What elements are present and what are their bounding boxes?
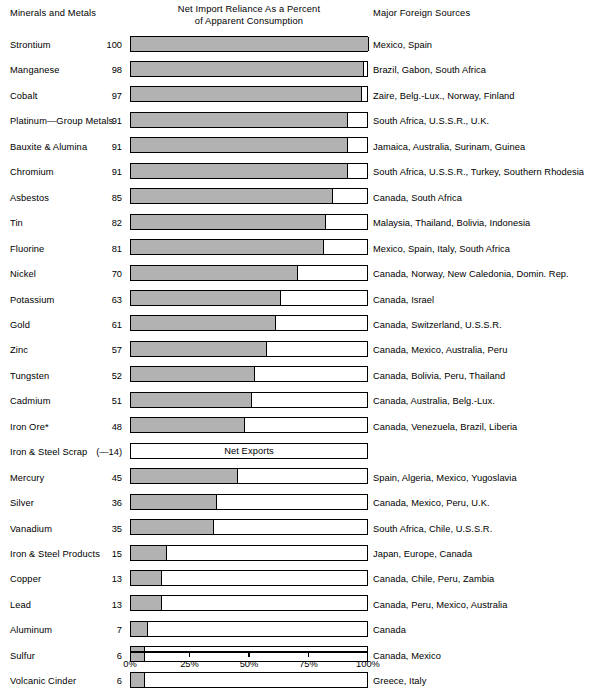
category-label: Tungsten: [10, 371, 49, 381]
column-header-sources: Major Foreign Sources: [373, 8, 470, 18]
bar-track: Net Exports: [130, 443, 368, 459]
chart-row: Iron & Steel Scrap(—14)Net Exports: [0, 440, 590, 465]
chart-row: Nickel70Canada, Norway, New Caledonia, D…: [0, 262, 590, 287]
column-header-minerals: Minerals and Metals: [10, 8, 96, 18]
foreign-sources-label: Canada, Switzerland, U.S.S.R.: [373, 320, 502, 330]
category-value: 45: [52, 473, 122, 483]
axis-tick: [367, 651, 368, 657]
bar-track: [130, 672, 368, 688]
foreign-sources-label: Canada, Chile, Peru, Zambia: [373, 574, 494, 584]
chart-row: Volcanic Cinder6Greece, Italy: [0, 669, 590, 692]
category-label: Cobalt: [10, 91, 37, 101]
category-value: 51: [52, 396, 122, 406]
foreign-sources-label: Mexico, Spain, Italy, South Africa: [373, 244, 510, 254]
bar-fill: [131, 673, 145, 687]
bar-fill: [131, 164, 348, 178]
bar-track: [130, 595, 368, 611]
bar-fill: [131, 240, 324, 254]
category-value: 61: [52, 320, 122, 330]
category-value: 70: [52, 269, 122, 279]
foreign-sources-label: Brazil, Gabon, South Africa: [373, 65, 486, 75]
foreign-sources-label: South Africa, U.S.S.R., U.K.: [373, 116, 489, 126]
axis-tick: [248, 651, 249, 657]
category-value: 36: [52, 498, 122, 508]
category-label: Gold: [10, 320, 30, 330]
bar-track: [130, 494, 368, 510]
bar-fill: [131, 367, 255, 381]
bar-fill: [131, 596, 162, 610]
chart-row: Copper13Canada, Chile, Peru, Zambia: [0, 567, 590, 592]
bar-track: [130, 341, 368, 357]
bar-track: [130, 290, 368, 306]
category-value: 13: [52, 574, 122, 584]
chart-row: Chromium91South Africa, U.S.S.R., Turkey…: [0, 160, 590, 185]
net-exports-note: Net Exports: [131, 444, 367, 458]
chart-row: Zinc57Canada, Mexico, Australia, Peru: [0, 338, 590, 363]
foreign-sources-label: Mexico, Spain: [373, 40, 432, 50]
bar-fill: [131, 37, 369, 51]
category-label: Fluorine: [10, 244, 44, 254]
chart-row: Gold61Canada, Switzerland, U.S.S.R.: [0, 313, 590, 338]
chart-row: Tungsten52Canada, Bolivia, Peru, Thailan…: [0, 364, 590, 389]
bar-track: [130, 417, 368, 433]
bar-fill: [131, 418, 245, 432]
bar-track: [130, 239, 368, 255]
axis-tick: [189, 651, 190, 657]
bar-track: [130, 570, 368, 586]
category-label: Asbestos: [10, 193, 49, 203]
category-label: Sulfur: [10, 651, 35, 661]
bar-track: [130, 112, 368, 128]
bar-track: [130, 366, 368, 382]
bar-fill: [131, 62, 364, 76]
category-value: 91: [52, 116, 122, 126]
bar-fill: [131, 138, 348, 152]
foreign-sources-label: South Africa, U.S.S.R., Turkey, Southern…: [373, 167, 584, 177]
chart-row: Silver36Canada, Mexico, Peru, U.K.: [0, 491, 590, 516]
bar-track: [130, 315, 368, 331]
category-label: Chromium: [10, 167, 54, 177]
chart-row: Sulfur6Canada, Mexico: [0, 644, 590, 669]
bar-track: [130, 163, 368, 179]
bar-fill: [131, 266, 298, 280]
bar-fill: [131, 189, 333, 203]
chart-title-line-1: Net Import Reliance As a Percent: [130, 3, 368, 15]
category-label: Zinc: [10, 345, 28, 355]
category-label: Potassium: [10, 295, 54, 305]
foreign-sources-label: Jamaica, Australia, Surinam, Guinea: [373, 142, 525, 152]
category-value: 100: [52, 40, 122, 50]
foreign-sources-label: Canada, Peru, Mexico, Australia: [373, 600, 507, 610]
category-value: 98: [52, 65, 122, 75]
bar-fill: [131, 291, 281, 305]
bar-track: [130, 392, 368, 408]
foreign-sources-label: Zaire, Belg.-Lux., Norway, Finland: [373, 91, 515, 101]
category-label: Iron Ore*: [10, 422, 49, 432]
category-value: 6: [52, 651, 122, 661]
category-value: 13: [52, 600, 122, 610]
category-value: 91: [52, 167, 122, 177]
bar-track: [130, 36, 368, 52]
bar-track: [130, 188, 368, 204]
bar-fill: [131, 546, 167, 560]
chart-row: Platinum—Group Metals91South Africa, U.S…: [0, 109, 590, 134]
bar-track: [130, 265, 368, 281]
bar-fill: [131, 520, 214, 534]
category-value: 15: [52, 549, 122, 559]
chart-row: Aluminum7Canada: [0, 618, 590, 643]
bar-fill: [131, 342, 267, 356]
axis-tick-label: 75%: [299, 659, 318, 669]
bar-fill: [131, 393, 252, 407]
category-value: 57: [52, 345, 122, 355]
chart-row: Iron Ore*48Canada, Venezuela, Brazil, Li…: [0, 415, 590, 440]
foreign-sources-label: Canada, Mexico, Australia, Peru: [373, 345, 507, 355]
category-label: Nickel: [10, 269, 36, 279]
axis-tick-label: 50%: [240, 659, 259, 669]
chart-row: Manganese98Brazil, Gabon, South Africa: [0, 58, 590, 83]
chart-row: Lead13Canada, Peru, Mexico, Australia: [0, 593, 590, 618]
foreign-sources-label: Canada, Israel: [373, 295, 434, 305]
category-value: 81: [52, 244, 122, 254]
bar-track: [130, 621, 368, 637]
chart-title-line-2: of Apparent Consumption: [130, 15, 368, 27]
category-label: Silver: [10, 498, 34, 508]
bar-track: [130, 545, 368, 561]
